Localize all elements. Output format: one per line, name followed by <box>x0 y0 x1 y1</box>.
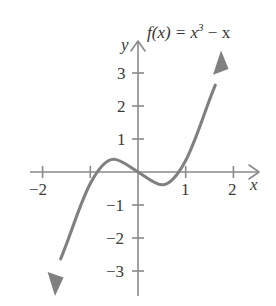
function-graph-figure: f(x) = x3 − x y x −2 1 2 3 2 1 −1 −2 −3 <box>0 0 276 306</box>
function-expression-label: f(x) = x3 − x <box>147 22 230 41</box>
function-expression-exponent: 3 <box>198 21 204 33</box>
curve-arrow-down-icon <box>48 272 64 296</box>
x-axis-label: x <box>250 176 258 193</box>
x-tick-label-minus2: −2 <box>29 181 47 198</box>
y-tick-label-3: 3 <box>117 65 126 82</box>
function-expression-suffix: − x <box>208 23 230 42</box>
y-tick-label-2: 2 <box>117 98 126 115</box>
y-tick-label-minus3: −3 <box>106 263 124 280</box>
y-axis-label: y <box>121 36 129 53</box>
y-tick-label-minus1: −1 <box>106 197 124 214</box>
x-tick-label-1: 1 <box>181 181 190 198</box>
graph-canvas <box>0 0 276 306</box>
y-tick-label-1: 1 <box>117 131 126 148</box>
curve-arrow-up-icon <box>213 51 229 75</box>
x-tick-label-2: 2 <box>228 181 237 198</box>
y-tick-label-minus2: −2 <box>106 230 124 247</box>
function-expression-prefix: f(x) = x <box>147 23 198 42</box>
